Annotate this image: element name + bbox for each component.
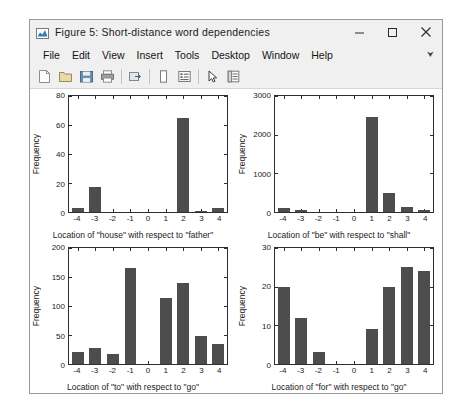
y-tick-mark (224, 364, 227, 365)
bar-slot (104, 248, 122, 364)
bar-series (69, 248, 227, 364)
bar (295, 318, 307, 364)
link-plot-icon[interactable] (125, 67, 145, 86)
bar-series (69, 96, 227, 212)
maximize-icon[interactable] (376, 20, 409, 44)
bar-slot (363, 96, 381, 212)
bar (212, 344, 224, 364)
bar-slot (328, 96, 346, 212)
toolbar-separator (121, 69, 122, 84)
menu-item-tools[interactable]: Tools (169, 49, 206, 61)
x-tick-label: 1 (363, 213, 381, 224)
y-tick-label: 0 (267, 361, 271, 370)
menu-item-edit[interactable]: Edit (66, 49, 96, 61)
bar-slot (192, 248, 210, 364)
bar-slot (104, 96, 122, 212)
bar-slot (157, 248, 175, 364)
insert-legend-icon[interactable] (174, 67, 194, 86)
x-tick-label: 1 (363, 365, 381, 376)
print-figure-icon[interactable] (97, 67, 117, 86)
y-tick-mark (69, 212, 72, 213)
subplot-be-shall[interactable]: Frequency 0100020003000 -4-3-2-101234 Lo… (236, 89, 442, 241)
plot-area (68, 95, 228, 213)
x-tick-label: -3 (86, 213, 104, 224)
open-file-icon[interactable] (55, 67, 75, 86)
bar (107, 354, 119, 364)
y-tick-label: 60 (56, 120, 65, 129)
bar-slot (310, 248, 328, 364)
y-tick-mark (224, 212, 227, 213)
edit-pointer-icon[interactable] (202, 67, 222, 86)
x-tick-label: -2 (310, 213, 328, 224)
bar-series (275, 248, 433, 364)
x-axis-ticklabels: -4-3-2-101234 (274, 213, 434, 224)
save-figure-icon[interactable] (76, 67, 96, 86)
y-tick-mark (275, 364, 278, 365)
x-tick-label: -1 (121, 365, 139, 376)
x-tick-label: 1 (157, 365, 175, 376)
x-tick-label: 0 (139, 365, 157, 376)
menu-item-window[interactable]: Window (256, 49, 305, 61)
toolbar-separator (198, 69, 199, 84)
bar-slot (122, 248, 140, 364)
bar (418, 271, 430, 364)
x-tick-label: 4 (416, 213, 434, 224)
y-axis-label: Frequency (31, 134, 41, 174)
bar (125, 268, 137, 364)
menu-item-file[interactable]: File (37, 49, 66, 61)
x-axis-label-container: Location of "for" with respect to "go" (236, 376, 442, 389)
x-tick-label: -2 (104, 213, 122, 224)
bar-slot (293, 96, 311, 212)
close-icon[interactable] (409, 20, 442, 44)
menu-item-help[interactable]: Help (305, 49, 339, 61)
menu-item-desktop[interactable]: Desktop (205, 49, 256, 61)
y-tick-label: 2000 (253, 130, 271, 139)
x-tick-label: -3 (86, 365, 104, 376)
x-axis-ticklabels: -4-3-2-101234 (274, 365, 434, 376)
plot-area (274, 247, 434, 365)
x-axis-ticklabels: -4-3-2-101234 (68, 365, 228, 376)
subplot-for-go[interactable]: Frequency 0102030 -4-3-2-101234 Location… (236, 241, 442, 393)
show-plot-tools-icon[interactable] (223, 67, 243, 86)
insert-colorbar-icon[interactable] (153, 67, 173, 86)
x-tick-label: 2 (175, 213, 193, 224)
figure-canvas[interactable]: Frequency 020406080 -4-3-2-101234 Locati… (30, 89, 442, 393)
y-tick-label: 200 (52, 243, 65, 252)
bar (401, 207, 413, 212)
bar (195, 211, 207, 212)
subplot-house-father[interactable]: Frequency 020406080 -4-3-2-101234 Locati… (30, 89, 236, 241)
x-tick-label: -2 (310, 365, 328, 376)
y-tick-label: 150 (52, 272, 65, 281)
subplot-to-go[interactable]: Frequency 050100150200 -4-3-2-101234 Loc… (30, 241, 236, 393)
minimize-icon[interactable] (343, 20, 376, 44)
bar-slot (416, 248, 434, 364)
bar-slot (139, 96, 157, 212)
y-axis-ticklabels: 0100020003000 (248, 95, 274, 213)
x-tick-label: 1 (157, 213, 175, 224)
window-titlebar[interactable]: Figure 5: Short-distance word dependenci… (30, 20, 442, 44)
y-axis-label: Frequency (31, 286, 41, 326)
x-tick-label: -4 (68, 365, 86, 376)
y-tick-label: 30 (262, 243, 271, 252)
y-tick-label: 100 (52, 302, 65, 311)
bar (177, 118, 189, 212)
plot-area (68, 247, 228, 365)
bar (383, 193, 395, 212)
new-figure-icon[interactable] (34, 67, 54, 86)
x-tick-label: -3 (292, 213, 310, 224)
menu-item-insert[interactable]: Insert (131, 49, 169, 61)
y-axis-label-container: Frequency (236, 95, 248, 213)
x-tick-label: 0 (345, 213, 363, 224)
subplot-grid: Frequency 020406080 -4-3-2-101234 Locati… (30, 89, 442, 393)
menu-overflow-chevron-down-icon[interactable]: ⮟ (427, 51, 434, 59)
screenshot-root: Figure 5: Short-distance word dependenci… (0, 0, 472, 420)
x-tick-label: 3 (192, 365, 210, 376)
x-tick-label: -3 (292, 365, 310, 376)
bar-slot (345, 96, 363, 212)
y-tick-label: 20 (262, 282, 271, 291)
bar-slot (174, 96, 192, 212)
bar-series (275, 96, 433, 212)
x-axis-label: Location of "for" with respect to "go" (272, 382, 407, 392)
menu-item-view[interactable]: View (96, 49, 131, 61)
x-tick-label: -1 (327, 213, 345, 224)
